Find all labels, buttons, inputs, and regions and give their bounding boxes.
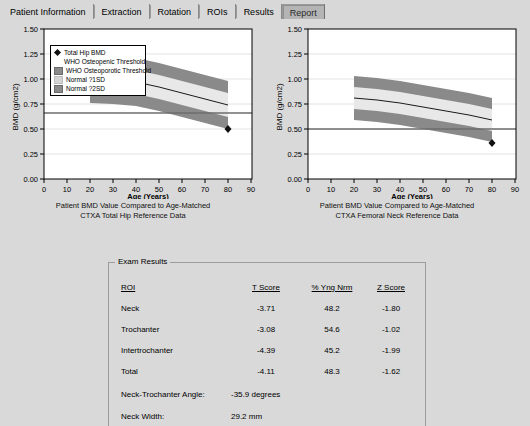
- caption-line-1: Patient BMD Value Compared to Age-Matche…: [268, 201, 526, 211]
- svg-text:30: 30: [373, 185, 381, 194]
- svg-text:0.00: 0.00: [287, 175, 302, 184]
- legend-label: Normal ?1SD: [66, 76, 105, 83]
- svg-text:Age (Years): Age (Years): [391, 192, 433, 199]
- svg-text:1.00: 1.00: [287, 75, 302, 84]
- cell-t-score: -3.71: [233, 298, 299, 319]
- tab-report[interactable]: Report: [282, 4, 325, 19]
- measurement-value: 29.2 mm: [231, 412, 381, 421]
- svg-text:80: 80: [224, 185, 232, 194]
- svg-text:Age (Years): Age (Years): [127, 192, 169, 199]
- cell-yng-nrm: 54.6: [299, 319, 365, 340]
- legend-label: WHO Osteoporotic Threshold: [66, 67, 151, 74]
- cell-roi: Trochanter: [121, 319, 233, 340]
- svg-text:30: 30: [109, 185, 117, 194]
- cell-roi: Total: [121, 361, 233, 382]
- svg-text:0.00: 0.00: [23, 175, 38, 184]
- svg-text:0.75: 0.75: [23, 100, 38, 109]
- svg-text:70: 70: [201, 185, 209, 194]
- table-header-row: ROI T Score % Yng Nrm Z Score: [121, 277, 417, 298]
- svg-text:BMD (g/cm2): BMD (g/cm2): [275, 83, 284, 130]
- tab-rotation[interactable]: Rotation: [151, 4, 200, 19]
- svg-text:80: 80: [488, 185, 496, 194]
- legend-label: Normal ?2SD: [66, 85, 105, 92]
- svg-text:1.50: 1.50: [287, 25, 302, 34]
- tab-patient-information[interactable]: Patient Information: [3, 4, 94, 19]
- cell-z-score: -1.80: [365, 298, 417, 319]
- caption-line-2: CTXA Femoral Neck Reference Data: [268, 211, 526, 221]
- measurement-label: Neck-Trochanter Angle:: [121, 390, 231, 399]
- tab-strip: Patient Information Extraction Rotation …: [0, 0, 530, 19]
- svg-text:0: 0: [42, 185, 46, 194]
- report-surface: 1.50 1.25 1.00 0.75 0.50 0.25 0.00: [0, 19, 530, 426]
- dark-swatch-icon: [54, 85, 63, 93]
- cell-roi: Neck: [121, 298, 233, 319]
- svg-text:10: 10: [327, 185, 335, 194]
- svg-text:0.50: 0.50: [287, 125, 302, 134]
- svg-text:1.25: 1.25: [287, 50, 302, 59]
- table-row: Neck -3.71 48.2 -1.80: [121, 298, 417, 319]
- legend-item: Total Hip BMD: [54, 48, 141, 57]
- measurements-list: Neck-Trochanter Angle: -35.9 degrees Nec…: [121, 383, 411, 426]
- chart-total-hip: 1.50 1.25 1.00 0.75 0.50 0.25 0.00: [4, 19, 262, 231]
- table-row: Intertrochanter -4.39 45.2 -1.99: [121, 340, 417, 361]
- tab-extraction[interactable]: Extraction: [95, 4, 150, 19]
- legend-label: WHO Osteopenic Threshold: [64, 58, 145, 65]
- exam-results-table: ROI T Score % Yng Nrm Z Score Neck -3.71…: [121, 277, 417, 382]
- column-header-yng-nrm: % Yng Nrm: [299, 277, 365, 298]
- column-header-roi: ROI: [121, 277, 233, 298]
- application-window: Patient Information Extraction Rotation …: [0, 0, 530, 426]
- legend-item: Normal ?2SD: [54, 84, 141, 93]
- cell-yng-nrm: 45.2: [299, 340, 365, 361]
- cell-roi: Intertrochanter: [121, 340, 233, 361]
- svg-text:0.25: 0.25: [287, 150, 302, 159]
- exam-results-groupbox: Exam Results ROI T Score % Yng Nrm Z Sco…: [108, 262, 426, 426]
- svg-text:70: 70: [465, 185, 473, 194]
- blank-swatch-icon: [54, 58, 61, 65]
- diamond-marker-icon: [54, 49, 61, 56]
- femoral-neck-plot-svg: 1.50 1.25 1.00 0.75 0.50 0.25 0.00: [268, 19, 526, 199]
- cell-yng-nrm: 48.2: [299, 298, 365, 319]
- svg-text:0.75: 0.75: [287, 100, 302, 109]
- chart-femoral-neck: 1.50 1.25 1.00 0.75 0.50 0.25 0.00: [268, 19, 526, 231]
- exam-results-title: Exam Results: [115, 257, 170, 267]
- svg-text:60: 60: [442, 185, 450, 194]
- legend-item: Normal ?1SD: [54, 75, 141, 84]
- svg-text:60: 60: [178, 185, 186, 194]
- cell-z-score: -1.99: [365, 340, 417, 361]
- column-header-z-score: Z Score: [365, 277, 417, 298]
- tab-results[interactable]: Results: [237, 4, 282, 19]
- svg-text:0.50: 0.50: [23, 125, 38, 134]
- tab-rois[interactable]: ROIs: [200, 4, 236, 19]
- svg-text:1.50: 1.50: [23, 25, 38, 34]
- cell-z-score: -1.02: [365, 319, 417, 340]
- svg-text:10: 10: [63, 185, 71, 194]
- caption-line-2: CTXA Total Hip Reference Data: [4, 211, 262, 221]
- tab-row: Patient Information Extraction Rotation …: [3, 2, 325, 19]
- cell-t-score: -4.39: [233, 340, 299, 361]
- svg-text:BMD (g/cm2): BMD (g/cm2): [11, 83, 20, 130]
- column-header-t-score: T Score: [233, 277, 299, 298]
- svg-text:20: 20: [350, 185, 358, 194]
- chart-caption-total-hip: Patient BMD Value Compared to Age-Matche…: [4, 201, 262, 221]
- legend-label: Total Hip BMD: [64, 49, 106, 56]
- light-swatch-icon: [54, 76, 63, 84]
- table-row: Trochanter -3.08 54.6 -1.02: [121, 319, 417, 340]
- dark-swatch-icon: [54, 67, 63, 75]
- caption-line-1: Patient BMD Value Compared to Age-Matche…: [4, 201, 262, 211]
- chart-caption-femoral-neck: Patient BMD Value Compared to Age-Matche…: [268, 201, 526, 221]
- cell-z-score: -1.62: [365, 361, 417, 382]
- legend-item: WHO Osteopenic Threshold: [54, 57, 141, 66]
- table-row: Total -4.11 48.3 -1.62: [121, 361, 417, 382]
- svg-text:20: 20: [86, 185, 94, 194]
- svg-text:0.25: 0.25: [23, 150, 38, 159]
- legend-total-hip: Total Hip BMD WHO Osteopenic Threshold W…: [50, 45, 146, 96]
- svg-text:90: 90: [247, 185, 255, 194]
- svg-text:90: 90: [511, 185, 519, 194]
- measurement-row-neck-width: Neck Width: 29.2 mm: [121, 405, 411, 426]
- measurement-label: Neck Width:: [121, 412, 231, 421]
- cell-yng-nrm: 48.3: [299, 361, 365, 382]
- legend-item: WHO Osteoporotic Threshold: [54, 66, 141, 75]
- measurement-row-neck-trochanter-angle: Neck-Trochanter Angle: -35.9 degrees: [121, 383, 411, 405]
- measurement-value: -35.9 degrees: [231, 390, 381, 399]
- svg-text:0: 0: [306, 185, 310, 194]
